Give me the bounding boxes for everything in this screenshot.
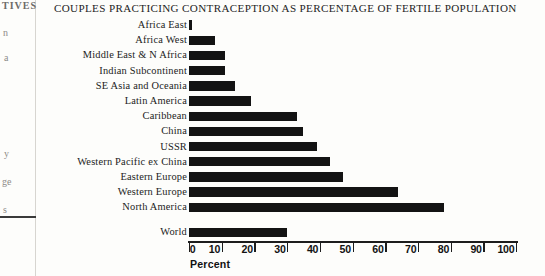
- chart-row: Caribbean: [0, 109, 545, 124]
- bleed-text-fragment: TIVES: [2, 0, 37, 11]
- chart-page: TIVESnayges COUPLES PRACTICING CONTRACEP…: [0, 0, 545, 276]
- x-axis-tick-label: 90: [470, 243, 483, 255]
- bar-category-label: China: [62, 124, 187, 138]
- x-axis-tick-label: 0: [190, 243, 197, 255]
- chart-row: Africa West: [0, 33, 545, 48]
- bar: [189, 142, 317, 151]
- bar-category-label: Caribbean: [62, 109, 187, 123]
- chart-row: Africa East: [0, 18, 545, 33]
- bar-category-label: Middle East & N Africa: [62, 48, 187, 62]
- x-axis-tick-label: 40: [307, 243, 320, 255]
- x-axis-tick: [320, 241, 321, 252]
- x-axis-tick-label: 10: [209, 243, 222, 255]
- bar-category-label: North America: [62, 200, 187, 214]
- x-axis-tick: [353, 241, 354, 252]
- x-axis-tick: [385, 241, 386, 252]
- x-axis-tick-label: 20: [242, 243, 255, 255]
- bar: [189, 20, 192, 29]
- chart-row: Indian Subcontinent: [0, 64, 545, 79]
- x-axis-tick: [483, 241, 484, 252]
- x-axis-tick-label: 60: [372, 243, 385, 255]
- bar: [189, 203, 444, 212]
- x-axis-title: Percent: [190, 258, 230, 270]
- bar-category-label: USSR: [62, 140, 187, 154]
- bar: [189, 96, 251, 105]
- chart-row: SE Asia and Oceania: [0, 79, 545, 94]
- bar-category-label: Africa West: [62, 33, 187, 47]
- chart-row: Latin America: [0, 94, 545, 109]
- x-axis-tick: [254, 241, 255, 252]
- x-axis-tick-label: 50: [340, 243, 353, 255]
- bar: [189, 81, 235, 90]
- bar: [189, 187, 398, 196]
- bar-category-label: SE Asia and Oceania: [62, 79, 187, 93]
- x-axis-tick-label: 70: [405, 243, 418, 255]
- bar: [189, 51, 225, 60]
- plot-area: Africa EastAfrica WestMiddle East & N Af…: [0, 18, 545, 228]
- x-axis-tick: [222, 241, 223, 252]
- bar: [189, 36, 215, 45]
- summary-row: World: [0, 225, 545, 241]
- bar-category-label: Western Pacific ex China: [62, 155, 187, 169]
- chart-row: Middle East & N Africa: [0, 48, 545, 63]
- chart-row: China: [0, 124, 545, 139]
- bar-category-label: Indian Subcontinent: [62, 64, 187, 78]
- bar-category-label: Africa East: [62, 18, 187, 32]
- x-axis-tick: [287, 241, 288, 252]
- chart-row: USSR: [0, 140, 545, 155]
- bar-category-label: Eastern Europe: [62, 170, 187, 184]
- bar: [189, 66, 225, 75]
- bar-category-label: Latin America: [62, 94, 187, 108]
- chart-row: Western Pacific ex China: [0, 155, 545, 170]
- bar: [189, 112, 297, 121]
- x-axis-tick: [451, 241, 452, 252]
- chart-row: North America: [0, 200, 545, 215]
- x-axis-tick: [516, 241, 517, 252]
- bar: [189, 172, 343, 181]
- x-axis-tick-label: 100: [497, 243, 516, 255]
- x-axis-tick: [418, 241, 419, 252]
- bar: [189, 127, 303, 136]
- x-axis-tick-label: 30: [274, 243, 287, 255]
- summary-row-label: World: [62, 226, 187, 237]
- summary-bar: [189, 228, 287, 237]
- x-axis-tick-label: 80: [438, 243, 451, 255]
- bar-category-label: Western Europe: [62, 185, 187, 199]
- chart-title: COUPLES PRACTICING CONTRACEPTION AS PERC…: [54, 2, 541, 14]
- chart-row: Western Europe: [0, 185, 545, 200]
- chart-row: Eastern Europe: [0, 170, 545, 185]
- bar: [189, 157, 330, 166]
